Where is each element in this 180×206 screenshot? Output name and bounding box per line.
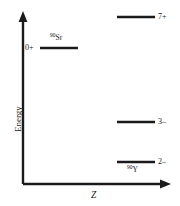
x-axis-arrowhead bbox=[160, 180, 171, 189]
level-spin-parity-label: 0+ bbox=[25, 44, 34, 52]
y-axis bbox=[19, 11, 28, 184]
level-spin-parity-label: 3– bbox=[158, 118, 166, 126]
nuclide-label: 90Sr bbox=[50, 34, 62, 42]
y-axis-title: Energy bbox=[14, 106, 23, 132]
diagram-canvas bbox=[0, 0, 180, 206]
energy-level-diagram: 0+90Sr7+3–2–90Y Energy Z bbox=[0, 0, 180, 206]
x-axis-title: Z bbox=[91, 191, 96, 201]
nuclide-label: 90Y bbox=[127, 166, 138, 174]
y-axis-arrowhead bbox=[19, 11, 28, 22]
level-spin-parity-label: 2– bbox=[158, 158, 166, 166]
level-spin-parity-label: 7+ bbox=[158, 13, 167, 21]
x-axis bbox=[23, 180, 171, 189]
